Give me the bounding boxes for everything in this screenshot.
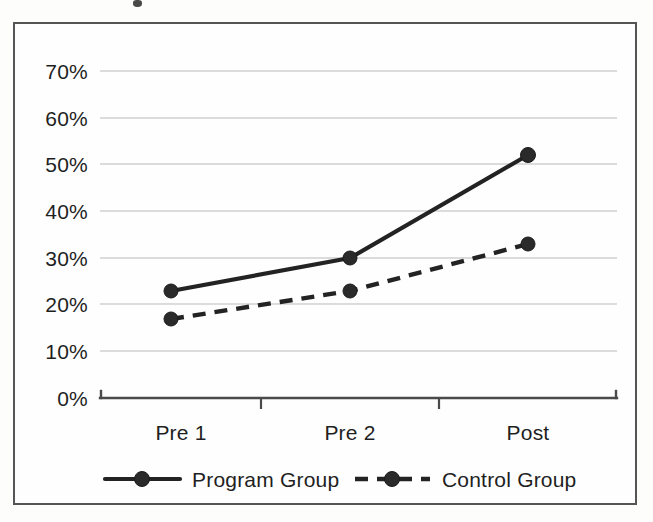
x-tick-label-pre-1: Pre 1 <box>155 421 206 444</box>
gridlines-group <box>100 71 617 351</box>
y-tick-label-60: 60% <box>45 107 88 130</box>
legend-label-control-group: Control Group <box>442 468 577 491</box>
axis-lines-group <box>100 391 617 409</box>
x-tick-label-pre-2: Pre 2 <box>324 421 375 444</box>
legend-label-program-group: Program Group <box>192 468 339 491</box>
chart-legend: Program Group Control Group <box>105 468 577 491</box>
y-tick-label-20: 20% <box>45 293 88 316</box>
line-chart-graphic: 70% 60% 50% 40% 30% 20% 10% 0% Pre 1 Pre… <box>0 0 653 522</box>
y-tick-label-30: 30% <box>45 247 88 270</box>
legend-swatch-control-marker <box>385 472 400 487</box>
y-tick-label-70: 70% <box>45 60 88 83</box>
data-point-program-pre-1 <box>164 284 178 298</box>
y-tick-label-0: 0% <box>57 387 88 410</box>
x-tick-label-post: Post <box>507 421 550 444</box>
y-axis-labels-group: 70% 60% 50% 40% 30% 20% 10% 0% <box>45 60 88 410</box>
series-program-group <box>164 148 536 299</box>
data-point-control-pre-2 <box>343 284 357 298</box>
y-tick-label-50: 50% <box>45 153 88 176</box>
data-point-control-post <box>521 237 535 251</box>
legend-entry-program-group[interactable]: Program Group <box>105 468 339 491</box>
chart-container: 70% 60% 50% 40% 30% 20% 10% 0% Pre 1 Pre… <box>0 0 653 522</box>
legend-entry-control-group[interactable]: Control Group <box>355 468 577 491</box>
y-tick-label-40: 40% <box>45 200 88 223</box>
series-program-group-line <box>171 155 528 291</box>
data-point-program-post <box>521 148 536 163</box>
data-point-program-pre-2 <box>343 251 357 265</box>
legend-swatch-program-marker <box>135 472 150 487</box>
x-axis-labels-group: Pre 1 Pre 2 Post <box>155 421 549 444</box>
y-tick-label-10: 10% <box>45 340 88 363</box>
data-point-control-pre-1 <box>164 312 178 326</box>
